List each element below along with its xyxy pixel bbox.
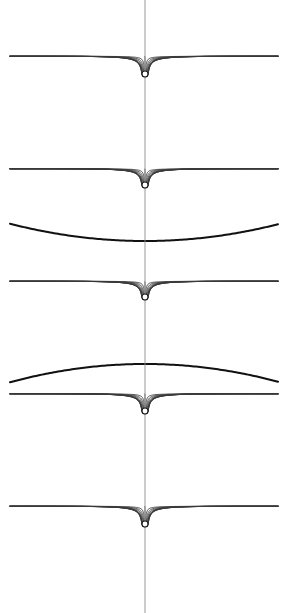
singularity-node: [142, 521, 148, 527]
singularity-node: [142, 182, 148, 188]
singularity-node: [142, 408, 148, 414]
singularity-node: [142, 294, 148, 300]
field-line-plot: [0, 0, 288, 613]
singularity-node: [142, 71, 148, 77]
field-line-figure: [0, 0, 288, 613]
